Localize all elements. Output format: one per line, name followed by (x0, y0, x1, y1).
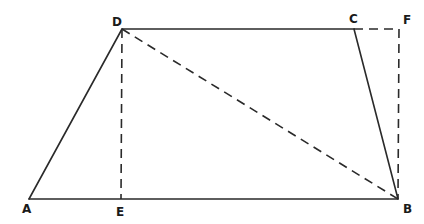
label-F: F (403, 13, 411, 27)
segment-BC (354, 29, 398, 199)
diagonal-DB (122, 29, 398, 199)
label-C: C (349, 12, 358, 26)
altitude-DE (121, 29, 122, 199)
label-B: B (403, 202, 412, 216)
segment-DA (29, 29, 122, 199)
trapezoid-diagram: A B C D E F (0, 0, 424, 224)
label-A: A (22, 202, 32, 216)
label-D: D (112, 15, 122, 29)
altitude-FB (398, 29, 399, 199)
label-E: E (116, 205, 124, 219)
